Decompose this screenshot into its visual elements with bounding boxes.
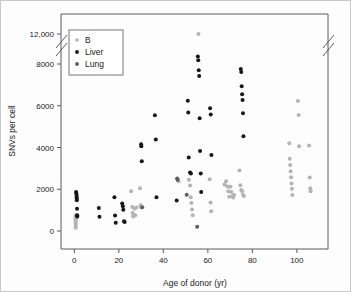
legend-label-liver: Liver [85,47,104,57]
data-point [238,183,242,187]
data-point [229,185,233,189]
figure-panel: 0200040006000800012,000 020406080100 Age… [0,0,351,292]
series-liver [74,55,245,225]
data-point [288,163,292,167]
data-point [229,190,233,194]
data-point [114,221,118,225]
data-point [287,141,291,145]
data-point [112,195,116,199]
y-tick-label: 12,000 [30,30,55,39]
legend-marker-lung [75,62,79,66]
data-point [209,201,213,205]
data-point [186,99,190,103]
data-point [209,153,213,157]
data-point [185,193,189,197]
data-point [290,181,294,185]
data-point [307,143,311,147]
data-point [129,189,133,193]
data-point [297,144,301,148]
data-point [153,113,157,117]
data-point [297,113,301,117]
data-point [232,193,236,197]
data-point [240,189,244,193]
y-tick-label: 6000 [36,102,54,111]
data-point [197,32,201,36]
data-point [186,110,190,114]
data-point [208,106,212,110]
data-point [197,68,201,72]
data-point [97,206,101,210]
data-point [209,113,213,117]
data-point [123,220,127,224]
data-point [187,156,191,160]
data-point [241,98,245,102]
data-point [97,215,101,219]
data-point [289,175,293,179]
y-axis-title: SNVs per cell [7,105,17,157]
data-point [191,213,195,217]
data-point [75,207,79,211]
data-point [195,225,199,229]
y-tick-label: 2000 [36,185,54,194]
data-point [140,159,144,163]
data-point [296,99,300,103]
data-point [139,144,143,148]
x-tick-label: 20 [114,256,123,265]
data-point [242,194,246,198]
y-axis-ticks: 0200040006000800012,000 [30,30,61,236]
y-tick-label: 8000 [36,60,54,69]
data-point [198,149,202,153]
x-axis-title: Age of donor (yr) [163,278,227,288]
data-point [197,74,201,78]
data-point [75,198,79,202]
data-point [189,171,193,175]
x-tick-label: 80 [248,256,257,265]
x-axis-ticks: 020406080100 [72,249,304,265]
y-tick-label: 0 [50,227,55,236]
data-point [188,183,192,187]
scatter-plot-svg: 0200040006000800012,000 020406080100 Age… [1,1,351,292]
data-point [154,195,158,199]
x-tick-label: 0 [72,256,77,265]
data-point [199,190,203,194]
data-point [241,134,245,138]
data-point [290,187,294,191]
data-point [175,199,179,203]
data-point [74,226,78,230]
x-tick-label: 100 [290,256,304,265]
data-point [198,116,202,120]
data-point [237,168,241,172]
data-point [308,176,312,180]
data-point [196,58,200,62]
data-point [189,201,193,205]
y-tick-label: 4000 [36,144,54,153]
data-point [190,208,194,212]
data-point [176,178,180,182]
data-point [75,214,79,218]
data-point [135,206,139,210]
x-tick-label: 40 [159,256,168,265]
data-point [290,193,294,197]
data-point [241,111,245,115]
data-point [133,213,137,217]
data-point [121,208,125,212]
data-point [154,138,158,142]
data-point [240,84,244,88]
legend-marker-liver [75,50,79,54]
legend: B Liver Lung [69,30,123,75]
data-point [209,209,213,213]
legend-label-b: B [85,35,91,45]
data-point [289,169,293,173]
legend-label-lung: Lung [85,59,104,69]
data-point [224,179,228,183]
data-point [140,205,144,209]
data-point [196,55,200,59]
data-point [187,178,191,182]
data-point [189,195,193,199]
data-point [113,214,117,218]
legend-marker-b [75,38,78,41]
x-tick-label: 60 [203,256,212,265]
data-point [199,171,203,175]
data-point [240,92,244,96]
data-point [239,70,243,74]
